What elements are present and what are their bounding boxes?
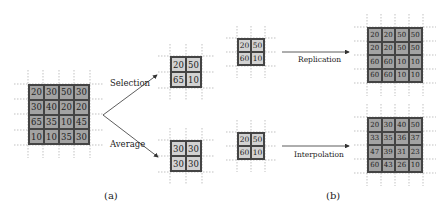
grid-cell: 36	[395, 132, 409, 146]
grid-cell: 65	[29, 115, 44, 130]
grid-cell: 30	[186, 156, 201, 171]
grid-cell: 50	[59, 85, 74, 100]
grid-cell: 20	[382, 42, 396, 56]
grid-cell: 30	[74, 85, 89, 100]
grid-cell: 31	[395, 145, 409, 159]
average-label: Average	[110, 139, 145, 149]
grid-cell: 30	[74, 129, 89, 144]
grid-cell: 50	[395, 28, 409, 42]
grid-cell: 20	[238, 133, 251, 146]
average-arrow	[103, 115, 158, 157]
grid-cell: 35	[44, 115, 59, 130]
interpolation-input-grid-2x2: 20 50 60 10	[237, 132, 265, 160]
grid-cell: 20	[368, 118, 382, 132]
grid-cell: 50	[186, 57, 201, 72]
grid-cell: 43	[382, 159, 396, 173]
grid-cell: 50	[251, 39, 264, 52]
selection-grid-2x2: 20 50 65 10	[170, 56, 202, 88]
replication-output-grid-4x4: 20 20 50 50 20 20 50 50 60 60 10 10 60 6…	[367, 27, 423, 83]
grid-cell: 10	[44, 129, 59, 144]
grid-cell: 60	[368, 55, 382, 69]
grid-cell: 50	[251, 133, 264, 146]
grid-cell: 50	[409, 118, 423, 132]
grid-cell: 10	[59, 115, 74, 130]
grid-cell: 60	[238, 52, 251, 65]
grid-cell: 39	[382, 145, 396, 159]
grid-cell: 50	[409, 42, 423, 56]
grid-cell: 10	[409, 55, 423, 69]
grid-cell: 26	[395, 159, 409, 173]
grid-cell: 30	[44, 85, 59, 100]
grid-cell: 60	[382, 55, 396, 69]
interpolation-label: Interpolation	[294, 150, 344, 159]
grid-cell: 20	[74, 100, 89, 115]
interpolation-output-grid-4x4: 20 30 40 50 33 35 36 37 47 39 31 23 60 4…	[367, 117, 423, 173]
grid-cell: 10	[409, 69, 423, 83]
grid-cell: 30	[171, 141, 186, 156]
grid-cell: 23	[409, 145, 423, 159]
grid-cell: 10	[409, 159, 423, 173]
grid-cell: 60	[368, 159, 382, 173]
caption-a: (a)	[104, 190, 118, 201]
grid-cell: 60	[238, 146, 251, 159]
replication-label: Replication	[298, 55, 341, 64]
grid-cell: 30	[171, 156, 186, 171]
grid-cell: 45	[74, 115, 89, 130]
grid-cell: 40	[44, 100, 59, 115]
grid-cell: 37	[409, 132, 423, 146]
grid-cell: 60	[368, 69, 382, 83]
grid-cell: 35	[382, 132, 396, 146]
grid-cell: 10	[395, 69, 409, 83]
grid-cell: 30	[29, 100, 44, 115]
grid-cell: 20	[59, 100, 74, 115]
grid-cell: 10	[186, 72, 201, 87]
grid-cell: 65	[171, 72, 186, 87]
grid-cell: 20	[368, 28, 382, 42]
grid-cell: 10	[29, 129, 44, 144]
grid-cell: 10	[395, 55, 409, 69]
replication-input-grid-2x2: 20 50 60 10	[237, 38, 265, 66]
grid-cell: 30	[186, 141, 201, 156]
caption-b: (b)	[326, 190, 340, 201]
grid-cell: 10	[251, 52, 264, 65]
grid-cell: 20	[368, 42, 382, 56]
grid-cell: 20	[171, 57, 186, 72]
grid-cell: 20	[29, 85, 44, 100]
grid-cell: 35	[59, 129, 74, 144]
grid-cell: 50	[409, 28, 423, 42]
grid-cell: 47	[368, 145, 382, 159]
grid-cell: 20	[238, 39, 251, 52]
grid-cell: 60	[382, 69, 396, 83]
grid-cell: 40	[395, 118, 409, 132]
grid-cell: 30	[382, 118, 396, 132]
diagram-canvas: 20 30 50 30 30 40 20 20 65 35 10 45 10 1…	[0, 0, 447, 214]
selection-label: Selection	[110, 78, 150, 88]
grid-cell: 20	[382, 28, 396, 42]
input-grid-4x4: 20 30 50 30 30 40 20 20 65 35 10 45 10 1…	[28, 84, 90, 145]
grid-cell: 50	[395, 42, 409, 56]
average-grid-2x2: 30 30 30 30	[170, 140, 202, 172]
grid-cell: 10	[251, 146, 264, 159]
grid-cell: 33	[368, 132, 382, 146]
